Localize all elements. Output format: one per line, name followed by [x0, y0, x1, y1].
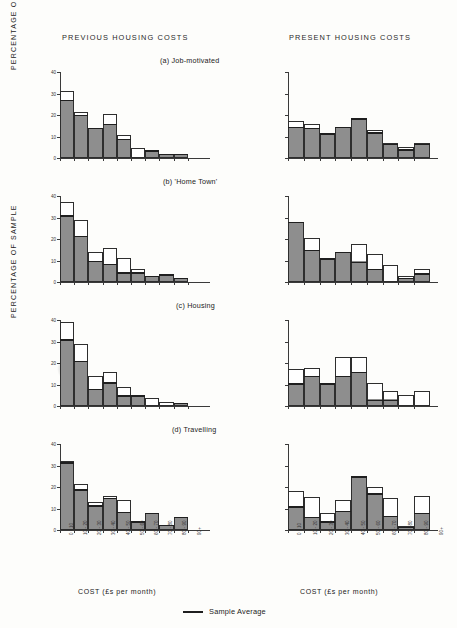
histogram-bar: [74, 220, 88, 282]
sample-average-marker: [159, 154, 173, 155]
x-tick: [320, 158, 321, 161]
x-tick: [74, 282, 75, 285]
x-tick: [383, 530, 384, 533]
y-tick: [285, 115, 288, 116]
y-tick-label: 0: [42, 528, 56, 533]
sample-average-marker: [88, 128, 102, 129]
histogram-bar: [60, 91, 74, 158]
sample-average-marker: [131, 395, 145, 396]
x-axis: [288, 158, 438, 159]
y-tick-label: 20: [42, 237, 56, 242]
y-tick-label: 10: [42, 258, 56, 263]
histogram-bar: [398, 395, 414, 406]
figure-housing-costs: PREVIOUS HOUSING COSTS PRESENT HOUSING C…: [0, 0, 457, 628]
x-tick: [304, 530, 305, 533]
histogram-bar: [145, 398, 159, 406]
x-tick: [398, 406, 399, 409]
x-tick: [131, 282, 132, 285]
sample-average-marker: [74, 361, 88, 362]
sample-average-marker: [117, 272, 131, 273]
y-tick-label: 0: [42, 156, 56, 161]
y-tick: [285, 342, 288, 343]
sample-average-marker: [60, 100, 74, 101]
x-tick: [414, 158, 415, 161]
x-tick: [304, 406, 305, 409]
x-tick: [188, 158, 189, 161]
histogram-bar: [320, 383, 336, 406]
histogram-bar: [414, 391, 430, 406]
x-tick: [304, 282, 305, 285]
x-tick: [351, 158, 352, 161]
histogram-bar: [74, 112, 88, 158]
x-axis: [288, 406, 438, 407]
sample-average-marker: [367, 269, 383, 270]
sample-average-marker: [74, 115, 88, 116]
sample-average-marker: [88, 261, 102, 262]
y-tick-label: 20: [42, 113, 56, 118]
y-tick-label: 0: [42, 280, 56, 285]
x-tick: [188, 530, 189, 533]
x-tick: [304, 158, 305, 161]
panel-title-b: (b) 'Home Town': [163, 177, 217, 186]
x-tick: [159, 158, 160, 161]
x-tick: [288, 158, 289, 161]
sample-average-marker: [145, 150, 159, 151]
x-tick: [174, 282, 175, 285]
x-tick: [74, 158, 75, 161]
histogram-bar: [304, 368, 320, 406]
x-tick: [383, 158, 384, 161]
sample-average-marker: [351, 118, 367, 119]
x-tick: [117, 530, 118, 533]
histogram-bar: [131, 148, 145, 158]
histogram-bar: [320, 133, 336, 158]
y-tick: [285, 94, 288, 95]
sample-average-marker: [174, 517, 188, 518]
sample-average-marker: [335, 252, 351, 253]
histogram-bar: [74, 344, 88, 406]
x-tick: [131, 406, 132, 409]
x-tick: [131, 158, 132, 161]
x-tick-label: 30 - 40: [111, 520, 116, 535]
y-tick: [285, 196, 288, 197]
x-tick: [145, 530, 146, 533]
histogram-bar: [414, 269, 430, 282]
sample-average-marker: [288, 506, 304, 507]
x-tick: [351, 406, 352, 409]
x-axis-title-left: COST (£s per month): [78, 588, 156, 595]
x-tick: [320, 282, 321, 285]
x-tick: [367, 406, 368, 409]
x-tick: [117, 406, 118, 409]
sample-average-marker: [414, 513, 430, 514]
y-tick: [285, 466, 288, 467]
x-tick: [288, 406, 289, 409]
sample-average-marker: [88, 505, 102, 506]
plot-c-present: [288, 320, 430, 406]
x-tick: [174, 406, 175, 409]
x-tick: [320, 406, 321, 409]
x-tick-label: 90+: [439, 527, 444, 535]
x-tick-label: 40 - 50: [361, 520, 366, 535]
x-tick: [88, 282, 89, 285]
histogram-bar: [367, 130, 383, 158]
y-tick-label: 40: [42, 442, 56, 447]
histogram-bar: [383, 391, 399, 406]
y-tick: [57, 196, 60, 197]
x-tick: [74, 530, 75, 533]
legend: Sample Average: [183, 607, 266, 616]
sample-average-marker: [288, 383, 304, 384]
y-tick-label: 30: [42, 339, 56, 344]
x-tick: [74, 406, 75, 409]
x-tick: [367, 530, 368, 533]
y-tick-label: 40: [42, 70, 56, 75]
x-tick: [398, 530, 399, 533]
y-tick: [285, 218, 288, 219]
y-tick: [285, 320, 288, 321]
x-tick: [414, 406, 415, 409]
sample-average-marker: [288, 222, 304, 223]
x-tick-label: 20 - 30: [329, 520, 334, 535]
histogram-bar: [131, 395, 145, 406]
histogram-bar: [88, 376, 102, 406]
x-tick: [174, 158, 175, 161]
x-tick-label: 60 - 70: [154, 520, 159, 535]
sample-average-marker: [174, 403, 188, 404]
